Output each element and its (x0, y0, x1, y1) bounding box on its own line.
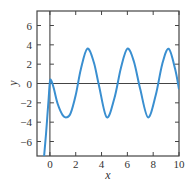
axis-labels: x y (6, 80, 111, 182)
x-tick-label: 2 (73, 158, 79, 170)
y-tick-label: 6 (27, 20, 33, 32)
y-tick-label: 2 (27, 58, 33, 70)
y-axis-label: y (6, 80, 20, 87)
x-tick-label: 8 (150, 158, 156, 170)
x-tick-label: 6 (125, 158, 131, 170)
y-tick-label: −2 (20, 97, 32, 109)
x-tick-label: 0 (47, 158, 53, 170)
x-tick-label: 4 (99, 158, 105, 170)
y-tick-label: 4 (27, 39, 33, 51)
series-line (44, 49, 179, 156)
x-axis-label: x (104, 168, 111, 182)
x-tick-label: 10 (174, 158, 186, 170)
line-chart: 0246810−6−4−20246 x y (0, 0, 196, 186)
y-tick-label: 0 (27, 78, 33, 90)
data-series (44, 49, 179, 156)
y-tick-label: −6 (20, 136, 32, 148)
y-tick-label: −4 (20, 116, 32, 128)
